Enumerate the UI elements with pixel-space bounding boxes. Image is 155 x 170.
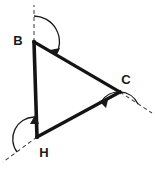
triangle-edge-ch (37, 92, 120, 137)
exterior-ray-at-c (120, 92, 152, 113)
vertex-label-h: H (39, 145, 48, 160)
vertex-label-b: B (13, 33, 22, 48)
exterior-ray-at-h (3, 137, 37, 162)
triangle-diagram-svg: B C H (0, 0, 155, 170)
geometry-diagram-canvas: B C H (0, 0, 155, 170)
vertex-label-c: C (121, 72, 131, 87)
triangle-edge-bc (34, 42, 120, 92)
